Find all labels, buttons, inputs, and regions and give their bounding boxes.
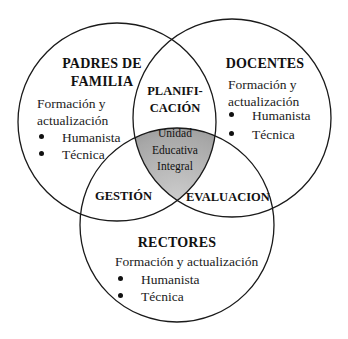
bullet-icon [118,293,123,298]
evaluacion-label: EVALUACION [186,191,270,204]
bullet-icon [229,112,234,117]
planificacion-line-2: CACIÓN [145,102,205,115]
rectores-bullet-2: Técnica [118,289,184,305]
padres-subtitle: Formación y actualización [37,97,108,127]
padres-subtitle-line-2: actualización [37,114,108,128]
padres-bullet-2: Técnica [39,147,105,163]
rectores-title: RECTORES [127,236,227,250]
bullet-icon [39,151,44,156]
planificacion-line-1: PLANIFI- [145,85,205,98]
padres-bullet-1: Humanista [39,130,121,146]
padres-title-line-2: FAMILIA [52,75,152,89]
center-line-3: Integral [143,161,207,173]
docentes-subtitle: Formación y actualización [228,78,299,108]
docentes-title: DOCENTES [215,57,315,71]
bullet-icon [118,276,123,281]
rectores-subtitle-line-1: Formación y actualización [115,255,258,269]
bullet-icon [229,131,234,136]
docentes-subtitle-line-2: actualización [228,95,299,109]
planificacion-label: PLANIFI- CACIÓN [145,85,205,114]
bullet-icon [39,134,44,139]
center-line-2: Educativa [143,145,207,157]
padres-title: PADRES DE FAMILIA [52,57,152,89]
rectores-subtitle: Formación y actualización [115,255,258,269]
padres-subtitle-line-1: Formación y [37,97,108,111]
gestion-label: GESTIÓN [95,190,152,203]
center-line-1: Unidad [143,128,207,140]
docentes-bullet-2: Técnica [229,127,295,143]
padres-title-line-1: PADRES DE [52,57,152,71]
rectores-title-line-1: RECTORES [127,236,227,250]
docentes-title-line-1: DOCENTES [215,57,315,71]
rectores-bullet-1: Humanista [118,272,200,288]
docentes-subtitle-line-1: Formación y [228,78,299,92]
docentes-bullet-1: Humanista [229,108,311,124]
center-label: Unidad Educativa Integral [143,128,207,173]
